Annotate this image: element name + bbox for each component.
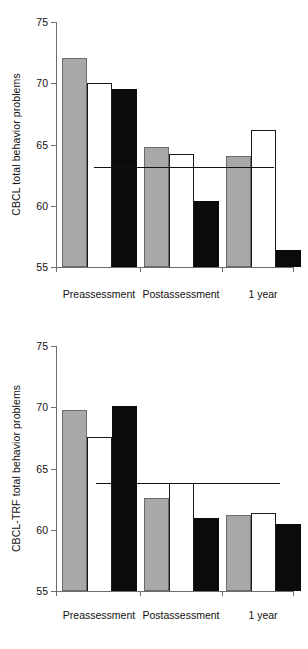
chart-cbcl-total: CBCL total behavior problems 5560657075 … (0, 0, 308, 324)
y-axis-tick-label: 70 (36, 77, 48, 89)
bar-white-postassessment (169, 154, 194, 267)
x-axis-line (56, 591, 294, 592)
y-axis-tick-mark (51, 83, 56, 84)
y-axis-tick-label: 60 (36, 200, 48, 212)
x-axis-end-tick (293, 267, 294, 272)
plot-area: 5560657075 (56, 346, 294, 591)
y-axis-tick-mark (51, 407, 56, 408)
x-axis-group-separator (222, 591, 223, 596)
y-axis-title: CBCL-TRF total behavior problems (8, 336, 24, 601)
bar-white-1-year (251, 513, 276, 591)
y-axis-tick-mark (51, 530, 56, 531)
y-axis-tick-label: 75 (36, 16, 48, 28)
x-axis-group-separator (140, 591, 141, 596)
y-axis-tick-label: 55 (36, 585, 48, 597)
y-axis-tick-label: 70 (36, 401, 48, 413)
y-axis-tick: 75 (56, 22, 57, 23)
chart-cbcl-trf-total: CBCL-TRF total behavior problems 5560657… (0, 324, 308, 649)
y-axis-tick-label: 55 (36, 261, 48, 273)
y-axis-tick: 75 (56, 346, 57, 347)
bar-gray-postassessment (144, 147, 169, 267)
y-axis-tick-label: 65 (36, 463, 48, 475)
x-axis-group-separator (140, 267, 141, 272)
y-axis-tick-mark (51, 346, 56, 347)
y-axis-title: CBCL total behavior problems (8, 12, 24, 277)
x-axis-label-1-year: 1 year (248, 609, 277, 621)
y-axis-tick-mark (51, 206, 56, 207)
y-axis-tick-label: 60 (36, 524, 48, 536)
x-axis-start-tick (56, 591, 57, 596)
bar-white-preassessment (87, 437, 112, 591)
y-axis-tick-label: 65 (36, 139, 48, 151)
bar-gray-1-year (226, 156, 251, 267)
x-axis-start-tick (56, 267, 57, 272)
x-axis-group-separator (222, 267, 223, 272)
x-axis-category-labels: PreassessmentPostassessment1 year (36, 288, 308, 304)
x-axis-label-1-year: 1 year (248, 288, 277, 300)
y-axis-tick: 60 (56, 206, 57, 207)
bar-black-1-year (276, 250, 301, 267)
bar-gray-preassessment (62, 58, 87, 267)
bar-black-postassessment (194, 518, 219, 592)
y-axis-tick-mark (51, 469, 56, 470)
x-axis-label-preassessment: Preassessment (63, 288, 135, 300)
y-axis-tick-label: 75 (36, 340, 48, 352)
reference-line (94, 167, 274, 168)
y-axis-tick-mark (51, 145, 56, 146)
y-axis-tick: 70 (56, 83, 57, 84)
y-axis-tick-mark (51, 22, 56, 23)
y-axis-tick: 65 (56, 469, 57, 470)
y-axis-tick: 60 (56, 530, 57, 531)
reference-line (96, 483, 280, 484)
bar-gray-postassessment (144, 498, 169, 591)
x-axis-category-labels: PreassessmentPostassessment1 year (36, 609, 308, 625)
x-axis-end-tick (293, 591, 294, 596)
x-axis-line (56, 267, 294, 268)
bar-black-postassessment (194, 201, 219, 267)
bar-black-preassessment (112, 406, 137, 591)
bar-gray-1-year (226, 515, 251, 591)
y-axis-tick: 70 (56, 407, 57, 408)
bar-black-1-year (276, 524, 301, 591)
x-axis-label-postassessment: Postassessment (142, 288, 219, 300)
bar-black-preassessment (112, 89, 137, 267)
bar-gray-preassessment (62, 410, 87, 591)
x-axis-label-postassessment: Postassessment (142, 609, 219, 621)
plot-area: 5560657075 (56, 22, 294, 267)
x-axis-label-preassessment: Preassessment (63, 609, 135, 621)
y-axis-tick: 65 (56, 145, 57, 146)
bar-white-preassessment (87, 83, 112, 267)
bar-white-postassessment (169, 483, 194, 591)
bar-white-1-year (251, 130, 276, 267)
